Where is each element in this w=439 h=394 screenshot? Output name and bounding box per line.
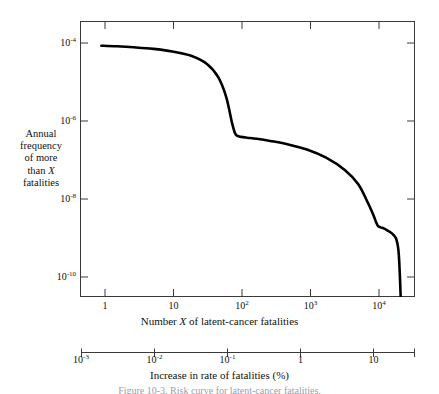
- y-axis-tick-labels: 10-4 10-6 10-8 10-10: [0, 0, 76, 394]
- y-tick-label: 10-10: [57, 272, 76, 282]
- y-axis-title-line: than X: [8, 165, 74, 177]
- y-axis-title-line: of more: [8, 152, 74, 164]
- plot-area: [80, 21, 415, 297]
- secondary-tick-label: 10-3: [73, 355, 89, 365]
- secondary-axis-title: Increase in rate of fatalities (%): [0, 369, 439, 381]
- x-axis-title-pre: Number: [141, 315, 180, 327]
- y-axis-title: Annual frequency of more than X fataliti…: [8, 128, 74, 189]
- x-axis-ticks-top: [105, 22, 379, 30]
- y-axis-ticks-left: [81, 43, 89, 277]
- risk-curve-chart: [80, 21, 415, 297]
- x-tick-label: 102: [235, 301, 249, 311]
- y-axis-title-line: fatalities: [8, 177, 74, 189]
- secondary-tick-label: 1: [298, 355, 303, 365]
- x-tick-label: 103: [304, 301, 318, 311]
- y-tick-label: 10-4: [60, 38, 76, 48]
- y-axis-title-line: Annual: [8, 128, 74, 140]
- x-axis-title: Number X of latent-cancer fatalities: [0, 315, 439, 327]
- x-axis-title-post: of latent-cancer fatalities: [186, 315, 298, 327]
- x-tick-label: 104: [372, 301, 386, 311]
- secondary-axis: [80, 344, 416, 354]
- figure-caption: Figure 10-3. Risk curve for latent-cance…: [0, 385, 439, 394]
- risk-curve-line: [101, 46, 400, 297]
- x-tick-label: 1: [103, 301, 108, 311]
- y-tick-label: 10-8: [60, 194, 76, 204]
- y-tick-label: 10-6: [60, 116, 76, 126]
- figure-page: 10-4 10-6 10-8 10-10 Annual frequency of…: [0, 0, 439, 394]
- secondary-tick-label: 10-2: [147, 355, 163, 365]
- secondary-tick-label: 10-1: [220, 355, 236, 365]
- y-axis-ticks-right: [407, 43, 415, 277]
- plot-frame: [81, 22, 415, 297]
- secondary-tick-label: 10: [369, 355, 379, 365]
- y-axis-title-line: frequency: [8, 140, 74, 152]
- x-tick-label: 10: [169, 301, 179, 311]
- x-axis-ticks-bottom: [105, 289, 379, 297]
